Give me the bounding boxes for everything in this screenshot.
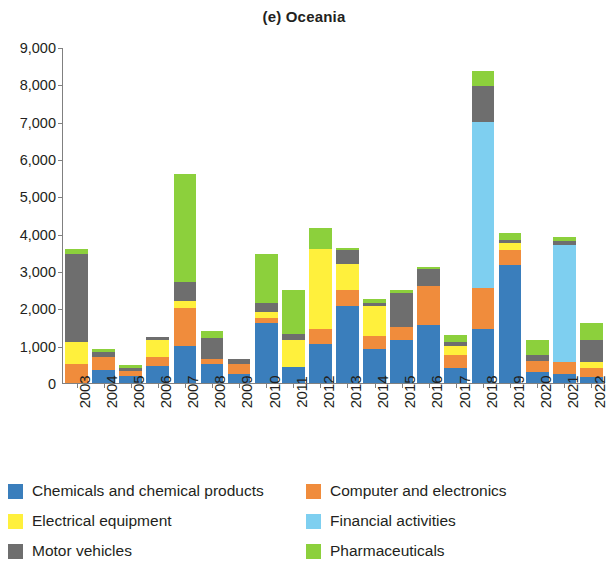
x-axis-label-slot: 2012 — [308, 390, 331, 462]
bar-segment[interactable] — [201, 338, 224, 359]
bar-segment[interactable] — [444, 346, 467, 355]
bar-segment[interactable] — [417, 269, 440, 286]
bar-segment[interactable] — [499, 233, 522, 240]
bar-column-2011[interactable] — [282, 48, 305, 383]
y-axis-tick-mark — [58, 235, 63, 236]
color-swatch-icon — [8, 484, 23, 499]
legend-item[interactable]: Financial activities — [306, 506, 604, 536]
legend-item[interactable]: Chemicals and chemical products — [8, 476, 306, 506]
bar-column-2015[interactable] — [390, 48, 413, 383]
bar-segment[interactable] — [472, 71, 495, 86]
bar-segment[interactable] — [580, 340, 603, 362]
x-axis-label-slot: 2007 — [173, 390, 196, 462]
bar-segment[interactable] — [390, 327, 413, 340]
bar-column-2010[interactable] — [255, 48, 278, 383]
legend-item[interactable]: Electrical equipment — [8, 506, 306, 536]
bar-segment[interactable] — [92, 357, 115, 370]
legend-item-label: Chemicals and chemical products — [32, 482, 264, 500]
bar-segment[interactable] — [472, 122, 495, 288]
x-axis-tick-label: 2010 — [266, 376, 283, 409]
bar-segment[interactable] — [174, 308, 197, 345]
x-axis-label-slot: 2016 — [417, 390, 440, 462]
bar-segment[interactable] — [417, 325, 440, 383]
bar-segment[interactable] — [65, 342, 88, 364]
bar-segment[interactable] — [444, 355, 467, 368]
bar-segment[interactable] — [309, 329, 332, 344]
x-axis-label-slot: 2015 — [390, 390, 413, 462]
y-axis-tick-label: 1,000 — [20, 339, 56, 355]
bar-segment[interactable] — [553, 362, 576, 373]
bar-segment[interactable] — [309, 228, 332, 249]
bar-column-2016[interactable] — [417, 48, 440, 383]
legend-item[interactable]: Pharmaceuticals — [306, 536, 604, 566]
bar-column-2021[interactable] — [553, 48, 576, 383]
x-axis-tick-label: 2003 — [76, 376, 93, 409]
x-axis-tick-label: 2020 — [537, 376, 554, 409]
bar-segment[interactable] — [228, 364, 251, 373]
bar-segment[interactable] — [309, 249, 332, 329]
x-axis: 2003200420052006200720082009201020112012… — [62, 390, 605, 462]
y-axis-tick-mark — [58, 48, 63, 49]
bar-column-2013[interactable] — [336, 48, 359, 383]
bar-segment[interactable] — [255, 323, 278, 383]
x-axis-label-slot: 2010 — [254, 390, 277, 462]
bar-segment[interactable] — [580, 323, 603, 340]
bar-column-2007[interactable] — [174, 48, 197, 383]
bar-segment[interactable] — [255, 254, 278, 303]
bar-column-2006[interactable] — [146, 48, 169, 383]
y-axis: 01,0002,0003,0004,0005,0006,0007,0008,00… — [0, 42, 60, 390]
bar-column-2018[interactable] — [472, 48, 495, 383]
bar-segment[interactable] — [553, 245, 576, 363]
bar-segment[interactable] — [417, 286, 440, 325]
bar-segment[interactable] — [444, 335, 467, 342]
bar-segment[interactable] — [174, 301, 197, 308]
bar-segment[interactable] — [146, 340, 169, 357]
x-axis-tick-label: 2005 — [130, 376, 147, 409]
bar-segment[interactable] — [526, 340, 549, 355]
bar-segment[interactable] — [499, 265, 522, 383]
x-axis-label-slot: 2013 — [336, 390, 359, 462]
legend-item-label: Motor vehicles — [32, 542, 132, 560]
bar-column-2022[interactable] — [580, 48, 603, 383]
legend-item[interactable]: Motor vehicles — [8, 536, 306, 566]
bar-segment[interactable] — [336, 250, 359, 263]
bar-segment[interactable] — [499, 243, 522, 250]
bar-column-2005[interactable] — [119, 48, 142, 383]
bar-segment[interactable] — [255, 303, 278, 312]
bar-segment[interactable] — [65, 254, 88, 342]
bar-column-2009[interactable] — [228, 48, 251, 383]
bar-segment[interactable] — [336, 264, 359, 290]
bar-segment[interactable] — [363, 306, 386, 336]
bar-column-2014[interactable] — [363, 48, 386, 383]
bar-column-2003[interactable] — [65, 48, 88, 383]
bar-series-group — [63, 48, 605, 383]
bar-column-2019[interactable] — [499, 48, 522, 383]
bar-segment[interactable] — [282, 290, 305, 335]
x-axis-label-slot: 2020 — [526, 390, 549, 462]
legend-item-label: Computer and electronics — [330, 482, 507, 500]
x-axis-tick-label: 2004 — [103, 376, 120, 409]
bar-segment[interactable] — [472, 288, 495, 329]
bar-column-2017[interactable] — [444, 48, 467, 383]
bar-segment[interactable] — [363, 336, 386, 349]
bar-segment[interactable] — [499, 250, 522, 265]
bar-segment[interactable] — [146, 357, 169, 366]
bar-segment[interactable] — [282, 340, 305, 367]
bar-column-2012[interactable] — [309, 48, 332, 383]
x-axis-tick-label: 2017 — [456, 376, 473, 409]
legend-item[interactable]: Computer and electronics — [306, 476, 604, 506]
bar-segment[interactable] — [201, 331, 224, 338]
bar-column-2004[interactable] — [92, 48, 115, 383]
bar-segment[interactable] — [174, 174, 197, 282]
bar-segment[interactable] — [336, 306, 359, 383]
x-axis-tick-label: 2009 — [238, 376, 255, 409]
y-axis-tick-label: 7,000 — [20, 115, 56, 131]
bar-column-2020[interactable] — [526, 48, 549, 383]
bar-segment[interactable] — [174, 282, 197, 301]
bar-segment[interactable] — [472, 86, 495, 121]
bar-column-2008[interactable] — [201, 48, 224, 383]
x-axis-label-slot: 2022 — [580, 390, 603, 462]
bar-segment[interactable] — [390, 293, 413, 327]
bar-segment[interactable] — [526, 361, 549, 372]
bar-segment[interactable] — [336, 290, 359, 307]
